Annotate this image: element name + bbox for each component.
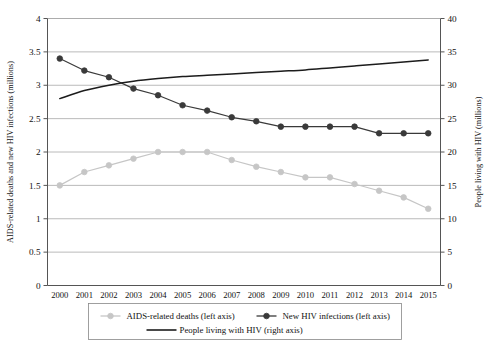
x-axis-tick-label: 2008 <box>248 290 265 300</box>
series-group <box>57 56 431 212</box>
right-axis-tick-label: 25 <box>448 114 458 124</box>
data-point-marker <box>180 102 186 108</box>
data-point-marker <box>327 175 333 181</box>
data-point-marker <box>106 163 112 169</box>
x-axis-tick-label: 2002 <box>100 290 117 300</box>
data-point-marker <box>106 74 112 80</box>
x-axis-tick-label: 2010 <box>297 290 314 300</box>
right-axis-tick-label: 15 <box>448 181 458 191</box>
right-axis-title-text: People living with HIV (millions) <box>474 96 483 207</box>
data-point-marker <box>131 156 137 162</box>
legend-marker-icon <box>108 313 114 319</box>
legend-item[interactable]: People living with HIV (right axis) <box>147 325 303 335</box>
data-point-marker <box>376 188 382 194</box>
x-axis-tick-label: 2004 <box>149 290 167 300</box>
series-1 <box>57 149 431 211</box>
chart-container: 00.511.522.533.54 0510152025303540 20002… <box>0 0 490 353</box>
left-axis-tick-label: 2.5 <box>29 114 41 124</box>
right-axis-tick-label: 40 <box>448 14 458 24</box>
data-point-marker <box>229 157 235 163</box>
x-axis-tick-label: 2005 <box>174 290 191 300</box>
data-point-marker <box>155 149 161 155</box>
legend-item-label: People living with HIV (right axis) <box>180 325 303 335</box>
data-point-marker <box>425 206 431 212</box>
x-axis-tick-label: 2013 <box>371 290 388 300</box>
left-axis-title-text: AIDS-related deaths and new HIV infectio… <box>6 61 15 243</box>
left-axis-tick-label: 1.5 <box>29 181 41 191</box>
data-point-marker <box>131 86 137 92</box>
left-axis-tick-labels: 00.511.522.533.54 <box>29 14 41 291</box>
x-axis-tick-label: 2014 <box>395 290 413 300</box>
right-axis-tick-label: 35 <box>448 47 458 57</box>
left-axis-ticks <box>44 19 48 286</box>
legend-item[interactable]: AIDS-related deaths (left axis) <box>101 311 235 321</box>
legend-item-label: New HIV infections (left axis) <box>283 311 390 321</box>
series-line <box>60 152 428 209</box>
legend-item[interactable]: New HIV infections (left axis) <box>257 311 390 321</box>
series-line-people-living-with-hiv <box>60 60 428 99</box>
left-axis-tick-label: 3.5 <box>29 47 41 57</box>
right-axis-title: People living with HIV (millions) <box>474 96 483 207</box>
data-point-marker <box>352 124 358 130</box>
data-point-marker <box>425 131 431 137</box>
right-axis-tick-label: 10 <box>448 214 458 224</box>
data-point-marker <box>82 68 88 74</box>
data-point-marker <box>278 169 284 175</box>
right-axis-tick-label: 0 <box>448 281 453 291</box>
right-axis-tick-label: 5 <box>448 247 453 257</box>
data-point-marker <box>303 124 309 130</box>
legend-item-label: AIDS-related deaths (left axis) <box>127 311 235 321</box>
chart-legend: AIDS-related deaths (left axis)New HIV i… <box>89 304 402 340</box>
data-point-marker <box>303 175 309 181</box>
data-point-marker <box>401 131 407 137</box>
data-point-marker <box>57 56 63 62</box>
right-axis-tick-label: 20 <box>448 147 458 157</box>
left-axis-tick-label: 2 <box>36 147 41 157</box>
x-axis-tick-label: 2015 <box>420 290 437 300</box>
series-2 <box>57 56 431 136</box>
data-point-marker <box>401 195 407 201</box>
left-axis-tick-label: 0.5 <box>29 247 41 257</box>
data-point-marker <box>253 119 259 125</box>
left-axis-tick-label: 3 <box>36 80 41 90</box>
left-axis-title: AIDS-related deaths and new HIV infectio… <box>6 61 15 243</box>
series-3 <box>60 60 428 99</box>
right-axis-ticks <box>441 19 445 286</box>
data-point-marker <box>204 108 210 114</box>
data-point-marker <box>204 149 210 155</box>
data-point-marker <box>376 131 382 137</box>
data-point-marker <box>278 124 284 130</box>
data-point-marker <box>57 183 63 189</box>
data-point-marker <box>180 149 186 155</box>
hiv-trends-line-chart: 00.511.522.533.54 0510152025303540 20002… <box>0 0 490 353</box>
x-axis-tick-label: 2001 <box>76 290 93 300</box>
data-point-marker <box>155 92 161 98</box>
left-axis-tick-label: 0 <box>36 281 41 291</box>
legend-marker-icon <box>264 313 270 319</box>
data-point-marker <box>253 164 259 170</box>
x-axis-tick-labels: 2000200120022003200420052006200720082009… <box>51 290 437 300</box>
x-axis-tick-label: 2006 <box>199 290 217 300</box>
series-line <box>60 59 428 134</box>
x-axis-tick-label: 2011 <box>322 290 339 300</box>
data-point-marker <box>82 169 88 175</box>
data-point-marker <box>229 114 235 120</box>
data-point-marker <box>352 181 358 187</box>
left-axis-tick-label: 4 <box>36 14 41 24</box>
x-axis-tick-label: 2012 <box>346 290 363 300</box>
x-axis-tick-label: 2000 <box>51 290 68 300</box>
x-axis-tick-label: 2003 <box>125 290 142 300</box>
right-axis-tick-label: 30 <box>448 80 458 90</box>
left-axis-tick-label: 1 <box>36 214 41 224</box>
data-point-marker <box>327 124 333 130</box>
right-axis-tick-labels: 0510152025303540 <box>448 14 458 291</box>
x-axis-tick-label: 2009 <box>272 290 289 300</box>
x-axis-tick-label: 2007 <box>223 290 241 300</box>
